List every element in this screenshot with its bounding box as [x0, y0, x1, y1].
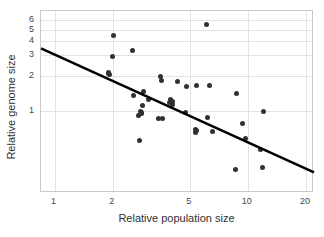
y-tick-label-5: 5	[34, 24, 39, 34]
x-tick-label-2: 2	[109, 196, 114, 206]
x-axis-title: Relative population size	[40, 212, 313, 224]
plot-area	[40, 10, 313, 192]
x-tick-label-10: 10	[242, 196, 252, 206]
y-tick-label-2: 2	[34, 70, 39, 80]
y-tick-label-text: 3	[29, 49, 34, 59]
y-tick-label-text: 6	[29, 14, 34, 24]
x-tick-label-20: 20	[300, 196, 310, 206]
y-tick-label-1: 1	[34, 105, 39, 115]
trendline	[41, 11, 314, 193]
x-tick-label-5: 5	[186, 196, 191, 206]
y-tick-label-4: 4	[34, 35, 39, 45]
y-tick-label-text: 4	[29, 35, 34, 45]
y-tick-label-3: 3	[34, 49, 39, 59]
y-tick-label-text: 5	[29, 24, 34, 34]
y-tick-label-6: 6	[34, 14, 39, 24]
y-axis-title: Relative genome size	[5, 16, 17, 198]
y-tick-label-text: 2	[29, 70, 34, 80]
scatter-chart-figure: 1251020 123456 Relative population size …	[0, 0, 324, 237]
y-tick-label-text: 1	[29, 105, 34, 115]
x-tick-label-1: 1	[51, 196, 56, 206]
